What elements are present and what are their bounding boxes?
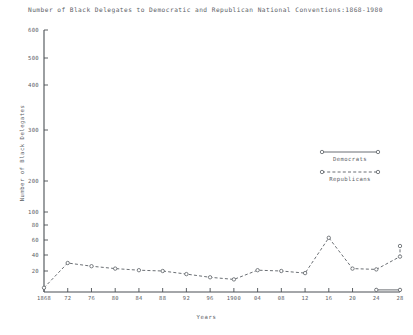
- x-tick-label: 12: [302, 295, 309, 301]
- legend-marker: [376, 170, 379, 173]
- y-tick-label: 60: [32, 237, 39, 243]
- data-point: [303, 271, 306, 274]
- data-point: [208, 276, 211, 279]
- data-point: [398, 244, 401, 247]
- y-tick-label: 20: [32, 268, 39, 274]
- legend-marker: [320, 170, 323, 173]
- x-tick-label: 84: [135, 295, 142, 301]
- data-series-group: [42, 236, 401, 291]
- data-point: [114, 267, 117, 270]
- data-point: [398, 288, 401, 291]
- data-point: [375, 288, 378, 291]
- data-point: [351, 267, 354, 270]
- x-tick-label: 92: [183, 295, 190, 301]
- x-tick-label: 1900: [227, 295, 241, 301]
- x-tick-label: 80: [112, 295, 119, 301]
- data-point: [185, 272, 188, 275]
- y-tick-label: 80: [32, 222, 39, 228]
- data-point: [256, 269, 259, 272]
- data-point: [161, 269, 164, 272]
- x-tick-label: 88: [159, 295, 166, 301]
- legend-label-republicans: Republicans: [329, 176, 370, 183]
- data-point: [280, 269, 283, 272]
- chart-container: Number of Black Delegates to Democratic …: [0, 0, 413, 335]
- x-tick-label: 96: [207, 295, 214, 301]
- legend-marker: [320, 150, 323, 153]
- x-tick-label: 20: [349, 295, 356, 301]
- data-point: [90, 265, 93, 268]
- x-tick-label: 08: [278, 295, 285, 301]
- y-tick-label: 400: [28, 82, 39, 88]
- y-axis: 20406080100200300400500600: [28, 27, 48, 292]
- data-point: [66, 261, 69, 264]
- data-point: [375, 268, 378, 271]
- x-axis: 186872768084889296190004081216202428: [37, 288, 404, 301]
- y-tick-label: 100: [28, 209, 39, 215]
- data-point: [327, 236, 330, 239]
- data-point: [137, 269, 140, 272]
- data-point: [398, 255, 401, 258]
- series-line-republicans: [44, 238, 400, 288]
- x-tick-label: 04: [254, 295, 261, 301]
- x-tick-label: 16: [325, 295, 332, 301]
- y-tick-label: 200: [28, 178, 39, 184]
- chart-legend: DemocratsRepublicans: [320, 150, 379, 183]
- x-tick-label: 24: [373, 295, 380, 301]
- x-tick-label: 28: [396, 295, 403, 301]
- y-tick-label: 40: [32, 252, 39, 258]
- data-point: [42, 286, 45, 289]
- chart-plot: 20406080100200300400500600 1868727680848…: [0, 0, 413, 335]
- y-tick-label: 500: [28, 55, 39, 61]
- legend-marker: [376, 150, 379, 153]
- y-tick-label: 600: [28, 27, 39, 33]
- y-tick-label: 300: [28, 127, 39, 133]
- x-tick-label: 1868: [37, 295, 51, 301]
- x-tick-label: 76: [88, 295, 95, 301]
- x-tick-label: 72: [64, 295, 71, 301]
- data-point: [232, 278, 235, 281]
- legend-label-democrats: Democrats: [333, 156, 367, 162]
